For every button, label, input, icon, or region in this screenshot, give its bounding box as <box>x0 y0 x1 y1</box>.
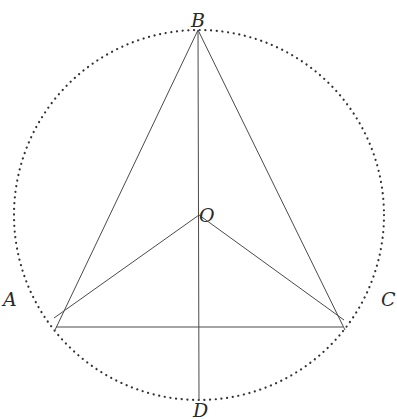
label-a: A <box>3 290 17 309</box>
label-b: B <box>191 11 205 30</box>
segment-oc <box>199 215 344 320</box>
label-o: O <box>199 206 215 225</box>
label-d: D <box>193 401 208 419</box>
segment-ba <box>55 30 198 330</box>
segment-oa <box>54 215 199 318</box>
segment-bc <box>198 30 345 330</box>
label-c: C <box>381 290 396 309</box>
